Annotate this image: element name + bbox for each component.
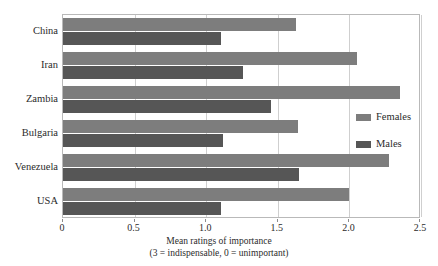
category-label-usa: USA: [0, 195, 58, 206]
legend-swatch-males: [356, 141, 371, 148]
category-label-venezuela: Venezuela: [0, 161, 58, 172]
legend-label-males: Males: [376, 138, 402, 150]
x-axis-title-line1: Mean ratings of importance: [0, 236, 438, 248]
bar-bulgaria-males: [63, 134, 223, 147]
category-label-zambia: Zambia: [0, 93, 58, 104]
x-tick-label: 2.5: [414, 222, 427, 234]
bar-venezuela-males: [63, 168, 299, 181]
legend-item-females: Females: [356, 110, 434, 124]
category-label-iran: Iran: [0, 59, 58, 70]
x-tick-label: 0.5: [127, 222, 140, 234]
x-tick-label: 2.0: [342, 222, 355, 234]
legend-label-females: Females: [376, 111, 411, 123]
bar-venezuela-females: [63, 154, 389, 167]
bar-group: [63, 188, 419, 219]
x-axis-title-line2: (3 = indispensable, 0 = unimportant): [0, 248, 438, 260]
x-axis: 00.51.01.52.02.5: [62, 219, 420, 235]
x-tick-label: 1.5: [271, 222, 284, 234]
category-label-china: China: [0, 25, 58, 36]
bar-iran-females: [63, 52, 357, 65]
bar-zambia-males: [63, 100, 271, 113]
legend-item-males: Males: [356, 137, 434, 151]
bar-group: [63, 52, 419, 83]
bar-usa-females: [63, 188, 349, 201]
legend: FemalesMales: [356, 110, 434, 164]
bar-chart-figure: ChinaIranZambiaBulgariaVenezuelaUSA 00.5…: [0, 0, 438, 266]
bar-usa-males: [63, 202, 221, 215]
bar-group: [63, 18, 419, 49]
x-axis-caption: Mean ratings of importance (3 = indispen…: [0, 236, 438, 259]
bar-china-females: [63, 18, 296, 31]
bar-zambia-females: [63, 86, 400, 99]
x-tick-label: 0: [60, 222, 65, 234]
x-tick-label: 1.0: [199, 222, 212, 234]
category-axis-labels: ChinaIranZambiaBulgariaVenezuelaUSA: [0, 14, 58, 218]
legend-swatch-females: [356, 114, 371, 121]
bar-iran-males: [63, 66, 243, 79]
bar-bulgaria-females: [63, 120, 298, 133]
bar-china-males: [63, 32, 221, 45]
category-label-bulgaria: Bulgaria: [0, 127, 58, 138]
